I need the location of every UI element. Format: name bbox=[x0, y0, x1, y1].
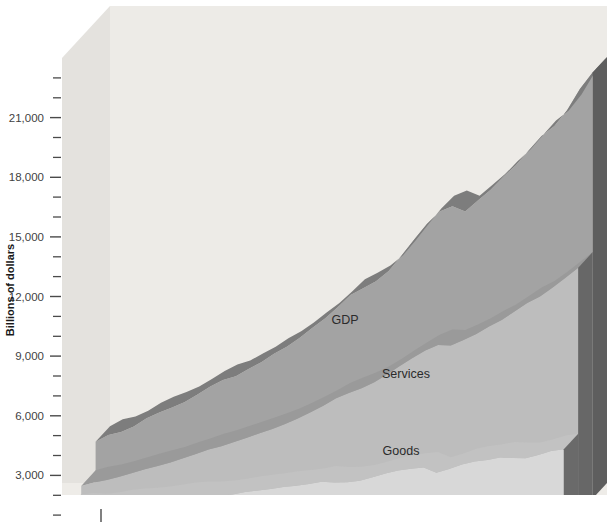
y-tick-label: 9,000 bbox=[15, 350, 44, 362]
series-gdp-end-cap bbox=[593, 57, 607, 499]
y-axis-title: Billions of dollars bbox=[4, 244, 16, 336]
y-tick-label: 6,000 bbox=[15, 410, 44, 422]
series-label-goods: Goods bbox=[383, 444, 420, 458]
y-tick-label: 21,000 bbox=[9, 112, 44, 124]
series-services-end-cap bbox=[578, 252, 592, 514]
chart-figure: 03,0006,0009,00012,00015,00018,00021,000… bbox=[0, 0, 607, 527]
y-tick-label: 15,000 bbox=[9, 231, 44, 243]
y-tick-label: 18,000 bbox=[9, 171, 44, 183]
area-chart-3d: 03,0006,0009,00012,00015,00018,00021,000… bbox=[0, 0, 607, 527]
left-wall bbox=[62, 6, 110, 483]
series-label-gdp: GDP bbox=[331, 313, 358, 327]
series-label-services: Services bbox=[382, 367, 430, 381]
y-tick-label: 3,000 bbox=[15, 469, 44, 481]
